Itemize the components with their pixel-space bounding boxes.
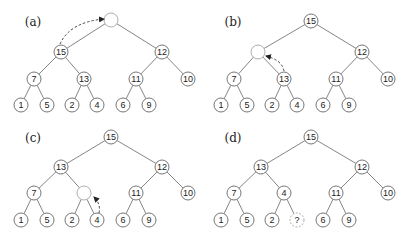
node-value: 11	[331, 74, 340, 84]
tree-edge	[139, 85, 146, 98]
panel-label: (b)	[224, 15, 241, 29]
node-value: 2	[269, 100, 274, 110]
tree-edge	[67, 24, 105, 48]
tree-edge	[267, 141, 305, 164]
heap-node: 9	[142, 213, 156, 227]
heap-node: 5	[40, 213, 54, 227]
heap-node: 1	[14, 98, 28, 112]
tree-edge	[339, 85, 346, 98]
tree-edge	[167, 172, 183, 188]
heap-node: 15	[304, 14, 318, 28]
heap-node: 5	[240, 213, 254, 227]
tree-edge	[339, 199, 346, 213]
node-value: 13	[256, 162, 266, 172]
tree-edge	[75, 199, 81, 213]
node-value: 9	[346, 215, 351, 225]
heap-node: 7	[227, 186, 241, 200]
node-value: ?	[294, 215, 299, 225]
heap-node: 15	[304, 130, 318, 144]
node-value: 11	[131, 188, 140, 198]
heap-node: 7	[27, 72, 41, 86]
tree-edge	[24, 199, 31, 213]
tree-edge	[275, 85, 281, 98]
tree-edge	[266, 172, 280, 188]
node-value: 5	[44, 100, 49, 110]
tree-edge	[224, 199, 231, 213]
heap-node: 2	[65, 98, 79, 112]
tree-edge	[341, 172, 357, 188]
node-value: 1	[218, 100, 223, 110]
node-value: 7	[31, 74, 36, 84]
heap-node: 13	[254, 160, 268, 174]
heap-node: 1	[14, 213, 28, 227]
tree-edge	[87, 85, 94, 98]
node-value: 15	[106, 132, 116, 142]
heap-node: 4	[90, 213, 104, 227]
tree-edge	[39, 172, 56, 188]
heap-node: 5	[240, 98, 254, 112]
node-value: 6	[320, 100, 325, 110]
panel-c: (c)15131271110152469	[14, 130, 195, 227]
node-value: 2	[269, 215, 274, 225]
tree-edge	[263, 57, 279, 74]
node-value: 5	[44, 215, 49, 225]
heap-node: 9	[142, 98, 156, 112]
heap-node: 10	[381, 186, 395, 200]
tree-edge	[117, 141, 156, 164]
tree-edge	[326, 199, 333, 213]
heap-node: 10	[381, 72, 395, 86]
heap-node: 2	[265, 98, 279, 112]
node-value: 10	[383, 74, 393, 84]
tree-edge	[126, 85, 133, 98]
panel-label: (a)	[25, 15, 42, 29]
heap-node: 15	[54, 45, 68, 59]
heap-node: 11	[329, 72, 343, 86]
node-value: 15	[306, 16, 316, 26]
heap-node: 1	[214, 98, 228, 112]
empty-hole-node	[104, 13, 118, 27]
heap-node: 11	[329, 186, 343, 200]
heap-node: 7	[227, 72, 241, 86]
heap-node: 13	[77, 72, 91, 86]
heap-node: 10	[181, 72, 195, 86]
tree-edge	[126, 199, 133, 213]
tree-edge	[37, 199, 44, 213]
node-value: 4	[94, 100, 99, 110]
tree-edge	[239, 172, 256, 188]
node-value: 9	[146, 100, 151, 110]
heap-node: 12	[355, 45, 369, 59]
node-circle	[104, 13, 118, 27]
node-value: 7	[31, 188, 36, 198]
tree-edge	[341, 57, 357, 74]
node-value: 10	[183, 74, 193, 84]
tree-edge	[75, 85, 81, 98]
tree-edge	[117, 24, 156, 49]
node-value: 7	[231, 188, 236, 198]
tree-edge	[275, 199, 281, 213]
node-value: 4	[294, 100, 299, 110]
move-arrow-icon	[60, 19, 104, 44]
node-value: 9	[146, 215, 151, 225]
tree-edge	[237, 199, 244, 213]
tree-edge	[239, 57, 254, 74]
heap-node: 12	[155, 160, 169, 174]
tree-edge	[67, 141, 105, 164]
tree-edge	[367, 172, 383, 188]
node-value: 5	[244, 215, 249, 225]
tree-edge	[39, 57, 56, 74]
heap-node: 13	[54, 160, 68, 174]
tree-edge	[317, 141, 356, 164]
node-value: 2	[69, 100, 74, 110]
heap-node: 11	[129, 72, 143, 86]
panel-label: (d)	[224, 131, 241, 145]
node-circle	[251, 45, 265, 59]
node-value: 1	[18, 100, 23, 110]
heap-node: 6	[116, 213, 130, 227]
node-value: 4	[281, 188, 286, 198]
move-arrow-icon	[94, 197, 99, 213]
heap-node: 2	[65, 213, 79, 227]
tree-edge	[264, 25, 305, 49]
heap-node: 5	[40, 98, 54, 112]
node-value: 9	[346, 100, 351, 110]
node-value: 13	[279, 74, 289, 84]
